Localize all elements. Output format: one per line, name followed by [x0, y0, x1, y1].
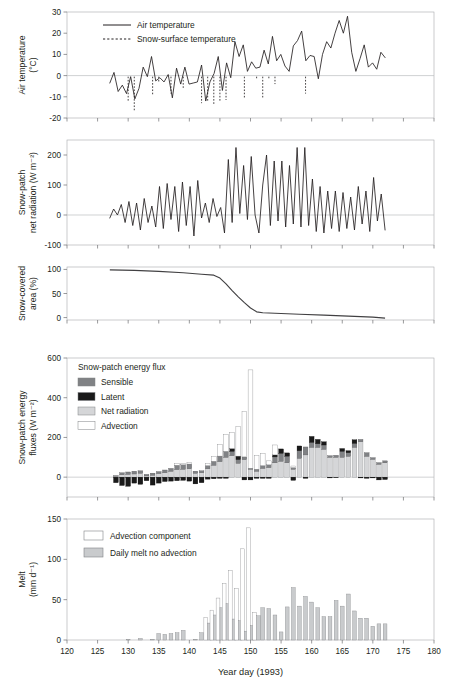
flux-bar-segment — [248, 477, 253, 480]
flux-bar-segment — [291, 468, 296, 470]
flux-bar-segment — [138, 471, 143, 473]
figure-container: -20-100102030Air temperatureSnow-surface… — [0, 0, 452, 686]
flux-bar-segment — [211, 477, 216, 479]
x-tick-label: 120 — [60, 647, 74, 656]
x-tick-label: 160 — [305, 647, 319, 656]
flux-bar-segment — [334, 455, 339, 457]
flux-bar-segment — [120, 473, 125, 475]
flux-bar-segment — [211, 461, 216, 465]
y-tick-label: 0 — [56, 314, 61, 323]
melt-bar — [169, 634, 173, 640]
melt-advection-bar — [228, 571, 232, 640]
flux-bar-segment — [328, 477, 333, 478]
flux-bar-segment — [383, 477, 388, 479]
flux-bar-segment — [291, 477, 296, 480]
flux-bar-segment — [156, 477, 161, 483]
melt-bar — [157, 634, 161, 640]
y-tick-label: 30 — [52, 8, 62, 17]
flux-bar-segment — [358, 439, 363, 441]
flux-bar-segment — [328, 456, 333, 458]
flux-bar-segment — [230, 456, 235, 477]
flux-bar-segment — [224, 451, 229, 457]
flux-bar-segment — [352, 443, 357, 447]
y-tick-label: 10 — [52, 50, 62, 59]
flux-bar-segment — [383, 461, 388, 463]
melt-bar — [340, 606, 344, 640]
melt-bar — [261, 608, 265, 640]
flux-bar-segment — [175, 465, 180, 469]
flux-bar-segment — [358, 477, 363, 478]
flux-bar-segment — [346, 456, 351, 477]
flux-bar-segment — [181, 463, 186, 465]
flux-bar-segment — [156, 472, 161, 474]
y-axis-label: Snow-patch — [17, 170, 27, 216]
flux-bar-segment — [340, 451, 345, 457]
melt-bar — [273, 615, 277, 640]
flux-bar-segment — [144, 477, 149, 481]
melt-advection-bar — [234, 588, 238, 640]
flux-bar-segment — [242, 460, 247, 477]
flux-bar-segment — [248, 469, 253, 477]
y-tick-label: 200 — [47, 433, 61, 442]
y-tick-label: 0 — [56, 72, 61, 81]
y-axis-label: Air temperature — [17, 35, 27, 94]
y-tick-label: 600 — [47, 354, 61, 363]
flux-bar-segment — [303, 477, 308, 478]
y-tick-label: -10 — [49, 93, 61, 102]
flux-bar-segment — [370, 477, 375, 478]
flux-bar-segment — [352, 447, 357, 477]
flux-bar-segment — [273, 455, 278, 457]
panel-snow-covered-area: 050100 — [47, 265, 434, 323]
flux-bar-segment — [175, 477, 180, 481]
flux-bar-segment — [279, 461, 284, 477]
legend-label-latent: Latent — [101, 392, 125, 402]
flux-bar-segment — [205, 466, 210, 469]
y-tick-label: 150 — [47, 515, 61, 524]
legend-swatch-net-radiation — [78, 407, 95, 415]
flux-bar-segment — [132, 471, 137, 474]
melt-bar — [365, 618, 369, 640]
flux-bar-segment — [162, 470, 167, 473]
flux-bar-segment — [346, 453, 351, 457]
flux-bar-segment — [132, 477, 137, 483]
x-tick-label: 180 — [427, 647, 441, 656]
y-tick-label: -100 — [45, 241, 62, 250]
y-tick-label: 50 — [52, 290, 62, 299]
x-tick-label: 155 — [274, 647, 288, 656]
panel-net-radiation: -1000100200 — [45, 140, 434, 250]
flux-bar-segment — [303, 455, 308, 477]
melt-bar — [151, 639, 155, 640]
legend-swatch-sensible — [78, 378, 95, 386]
flux-bar-segment — [322, 445, 327, 449]
flux-bar-segment — [279, 449, 284, 453]
figure-svg: -20-100102030Air temperatureSnow-surface… — [0, 0, 452, 686]
melt-bar — [304, 596, 308, 640]
flux-bar-segment — [260, 477, 265, 478]
flux-bar-segment — [162, 473, 167, 477]
melt-bar — [200, 633, 204, 640]
melt-bar — [257, 616, 261, 640]
melt-bar — [194, 639, 198, 640]
flux-bar-segment — [370, 459, 375, 477]
melt-bar — [126, 639, 130, 640]
flux-bar-segment — [248, 370, 253, 468]
melt-bar — [298, 606, 302, 640]
melt-bar — [175, 633, 179, 640]
flux-bar-segment — [254, 469, 259, 471]
flux-bar-segment — [242, 477, 247, 480]
melt-advection-bar — [241, 549, 245, 640]
y-tick-label: -20 — [49, 114, 61, 123]
legend-swatch-advection — [78, 422, 95, 430]
flux-bar-segment — [193, 477, 198, 484]
flux-bar-segment — [364, 477, 369, 478]
flux-bar-segment — [254, 471, 259, 477]
flux-bar-segment — [266, 477, 271, 478]
melt-bar — [163, 634, 167, 640]
melt-bar — [334, 600, 338, 640]
flux-bar-segment — [334, 457, 339, 477]
legend-label-advection: Advection — [101, 421, 138, 431]
flux-bar-segment — [309, 436, 314, 442]
flux-bar-segment — [352, 440, 357, 444]
flux-bar-segment — [132, 474, 137, 477]
flux-bar-segment — [297, 458, 302, 477]
